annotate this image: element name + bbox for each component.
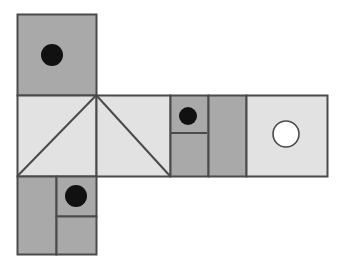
right-triangle-square — [97, 96, 171, 177]
white-circle — [273, 121, 299, 147]
bottom-right-plain-panel-fill — [57, 217, 97, 255]
net-diagram — [0, 0, 337, 274]
hole-square — [247, 96, 328, 177]
left-triangle-square — [18, 96, 97, 177]
bottom-left-panel-fill — [18, 177, 57, 255]
bottom-square — [18, 177, 97, 255]
figure-root — [0, 0, 337, 274]
plain-gray-panel — [209, 96, 247, 177]
split-dot-panel — [171, 96, 209, 177]
plain-gray-panel-fill — [209, 96, 247, 177]
black-dot — [41, 44, 63, 66]
black-dot — [179, 107, 197, 125]
top-square — [18, 15, 97, 96]
black-dot — [65, 185, 87, 207]
